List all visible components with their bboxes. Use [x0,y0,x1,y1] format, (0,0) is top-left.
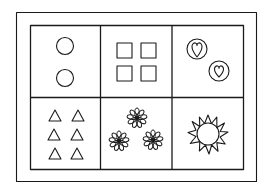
circle-icon [57,38,74,55]
triangle-icon [71,148,83,159]
circle-icon [57,70,74,87]
cell-triangles [48,110,84,159]
flower-icon [143,130,163,150]
heart-icon [192,43,202,57]
cell-squares [117,43,156,81]
cell-flowers [109,108,163,151]
square-icon [117,66,132,81]
cell-circles [57,38,74,87]
square-icon [141,43,156,58]
triangle-icon [72,110,84,121]
square-icon [141,66,156,81]
square-icon [117,43,132,58]
triangle-icon [48,129,60,140]
triangle-icon [49,110,61,121]
cell-sun [188,115,228,154]
heart-badge-circle [209,61,229,81]
flower-icon [127,108,147,128]
triangle-icon [49,148,61,159]
sun-rays-icon [188,115,228,154]
flower-icon [109,131,129,151]
heart-badge-circle [187,39,207,59]
triangle-icon [71,129,83,140]
heart-icon [215,66,224,77]
cell-hearts [187,39,229,81]
picture-grid-figure [0,0,267,188]
